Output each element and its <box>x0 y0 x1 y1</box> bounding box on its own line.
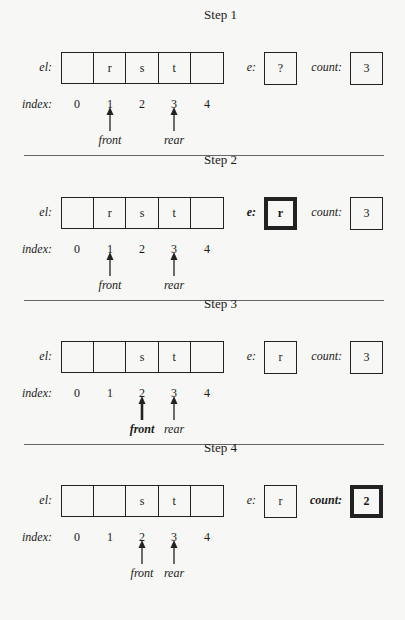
el-label: el: <box>20 493 52 508</box>
index-label: index: <box>10 242 52 257</box>
count-label: count: <box>300 205 342 220</box>
e-value-box: r <box>264 341 297 374</box>
array-cell-2: s <box>126 53 158 83</box>
array-cell-0 <box>62 198 94 228</box>
el-label: el: <box>20 60 52 75</box>
array-cell-1: r <box>94 198 126 228</box>
front-arrow-icon <box>105 107 115 131</box>
el-label: el: <box>20 205 52 220</box>
rear-pointer-label: rear <box>154 133 194 148</box>
step-panel-2: Step 2el:rste:rcount:3index:01234frontre… <box>0 152 405 297</box>
e-value-box: ? <box>264 52 297 85</box>
array-el: rst <box>61 52 224 84</box>
array-cell-1: r <box>94 53 126 83</box>
step-panel-3: Step 3el:ste:rcount:3index:01234frontrea… <box>0 296 405 441</box>
el-label: el: <box>20 349 52 364</box>
count-value-box: 3 <box>350 197 383 230</box>
index-number-0: 0 <box>67 242 87 257</box>
count-value-box: 3 <box>350 52 383 85</box>
e-label: e: <box>230 205 256 220</box>
count-value-box: 2 <box>350 485 383 518</box>
count-label: count: <box>300 493 342 508</box>
array-cell-2: s <box>126 198 158 228</box>
array-el: rst <box>61 197 224 229</box>
index-number-0: 0 <box>67 386 87 401</box>
index-label: index: <box>10 530 52 545</box>
front-arrow-icon <box>137 396 147 420</box>
index-number-0: 0 <box>67 97 87 112</box>
array-cell-3: t <box>159 486 191 516</box>
array-cell-2: s <box>126 342 158 372</box>
index-number-2: 2 <box>132 242 152 257</box>
e-label: e: <box>230 349 256 364</box>
array-cell-4 <box>191 198 223 228</box>
array-cell-3: t <box>159 342 191 372</box>
rear-arrow-icon <box>169 540 179 564</box>
index-number-2: 2 <box>132 97 152 112</box>
array-cell-4 <box>191 53 223 83</box>
step-title: Step 1 <box>18 7 405 23</box>
count-label: count: <box>300 60 342 75</box>
index-label: index: <box>10 386 52 401</box>
array-el: st <box>61 341 224 373</box>
rear-pointer-label: rear <box>154 566 194 581</box>
step-panel-1: Step 1el:rste:?count:3index:01234frontre… <box>0 7 405 152</box>
e-value-box: r <box>264 197 297 230</box>
index-number-1: 1 <box>100 530 120 545</box>
index-number-4: 4 <box>197 530 217 545</box>
front-arrow-icon <box>105 252 115 276</box>
array-cell-4 <box>191 342 223 372</box>
array-cell-1 <box>94 342 126 372</box>
front-pointer-label: front <box>90 133 130 148</box>
rear-pointer-label: rear <box>154 422 194 437</box>
array-cell-0 <box>62 486 94 516</box>
step-title: Step 3 <box>18 296 405 312</box>
front-arrow-icon <box>137 540 147 564</box>
index-number-4: 4 <box>197 97 217 112</box>
rear-arrow-icon <box>169 252 179 276</box>
step-title: Step 4 <box>18 440 405 456</box>
array-cell-3: t <box>159 198 191 228</box>
rear-arrow-icon <box>169 396 179 420</box>
step-panel-4: Step 4el:ste:rcount:2index:01234frontrea… <box>0 440 405 585</box>
count-label: count: <box>300 349 342 364</box>
front-pointer-label: front <box>90 278 130 293</box>
index-number-4: 4 <box>197 386 217 401</box>
index-number-0: 0 <box>67 530 87 545</box>
array-cell-0 <box>62 342 94 372</box>
array-cell-4 <box>191 486 223 516</box>
count-value-box: 3 <box>350 341 383 374</box>
e-label: e: <box>230 493 256 508</box>
rear-pointer-label: rear <box>154 278 194 293</box>
e-label: e: <box>230 60 256 75</box>
array-cell-3: t <box>159 53 191 83</box>
e-value-box: r <box>264 485 297 518</box>
index-label: index: <box>10 97 52 112</box>
index-number-1: 1 <box>100 386 120 401</box>
array-cell-2: s <box>126 486 158 516</box>
rear-arrow-icon <box>169 107 179 131</box>
index-number-4: 4 <box>197 242 217 257</box>
step-title: Step 2 <box>18 152 405 168</box>
array-cell-0 <box>62 53 94 83</box>
array-cell-1 <box>94 486 126 516</box>
array-el: st <box>61 485 224 517</box>
